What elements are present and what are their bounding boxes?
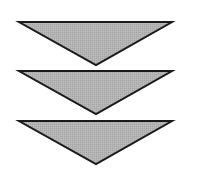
down-triangle-icon-1 (19, 22, 172, 65)
down-triangle-icon-2 (19, 71, 172, 114)
down-triangle-icon-3 (19, 121, 172, 164)
stacked-triangles-diagram (0, 0, 197, 181)
